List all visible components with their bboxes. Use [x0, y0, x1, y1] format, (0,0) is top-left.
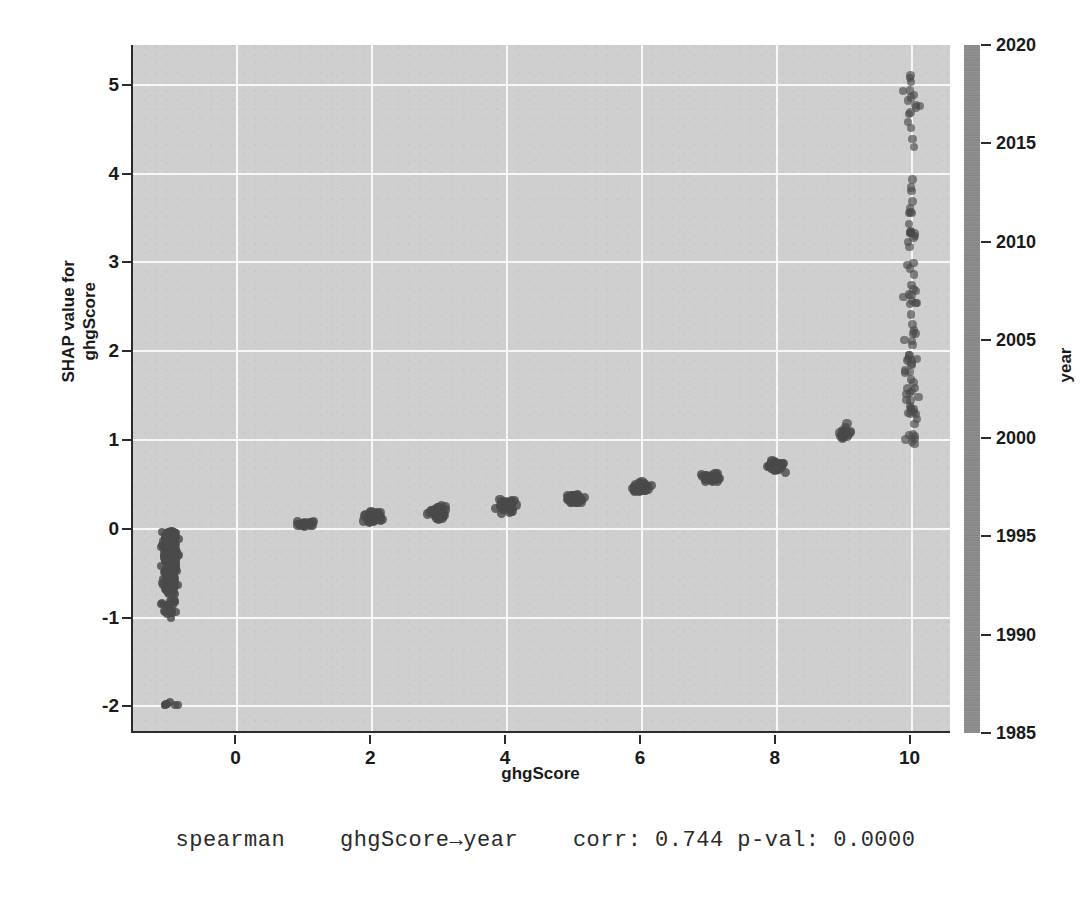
- scatter-point: [908, 341, 916, 349]
- scatter-point: [910, 143, 918, 151]
- scatter-point: [573, 490, 582, 499]
- colorbar-tick-mark: [981, 732, 991, 734]
- scatter-point: [491, 504, 500, 513]
- scatter-point: [909, 430, 917, 438]
- scatter-point: [908, 135, 916, 143]
- paper-texture: [133, 45, 950, 731]
- scatter-point: [501, 502, 510, 511]
- colorbar-tick-label: 1985: [996, 723, 1036, 744]
- colorbar-tick-label: 1990: [996, 624, 1036, 645]
- scatter-point: [899, 293, 907, 301]
- scatter-point: [904, 238, 912, 246]
- gridline-horizontal: [133, 617, 950, 619]
- gridline-horizontal: [133, 261, 950, 263]
- scatter-point: [901, 366, 909, 374]
- y-tick-mark: [122, 173, 131, 175]
- scatter-point: [910, 405, 918, 413]
- x-tick-mark: [234, 735, 236, 744]
- scatter-point: [910, 91, 918, 99]
- scatter-point: [906, 71, 914, 79]
- colorbar-title: year: [1056, 325, 1076, 405]
- colorbar-tick-label: 2015: [996, 133, 1036, 154]
- y-tick-label: 0: [108, 518, 119, 540]
- y-axis-title-line2: ghgScore: [80, 282, 99, 360]
- colorbar-tick-mark: [981, 634, 991, 636]
- y-tick-label: -1: [102, 607, 119, 629]
- y-tick-mark: [122, 705, 131, 707]
- colorbar-tick-mark: [981, 339, 991, 341]
- y-tick-mark: [122, 84, 131, 86]
- scatter-point: [781, 468, 790, 477]
- gridline-horizontal: [133, 84, 950, 86]
- scatter-point: [910, 440, 918, 448]
- gridline-horizontal: [133, 439, 950, 441]
- scatter-point: [438, 512, 447, 521]
- scatter-point: [701, 473, 710, 482]
- scatter-point: [174, 701, 182, 709]
- x-tick-mark: [369, 735, 371, 744]
- scatter-point: [635, 483, 644, 492]
- x-tick-mark: [504, 735, 506, 744]
- colorbar-tick-mark: [981, 44, 991, 46]
- gridline-horizontal: [133, 350, 950, 352]
- gridline-vertical: [506, 45, 508, 731]
- colorbar-tick-mark: [981, 142, 991, 144]
- scatter-point: [910, 326, 918, 334]
- gridline-vertical: [236, 45, 238, 731]
- gridline-horizontal: [133, 173, 950, 175]
- scatter-point: [909, 259, 917, 267]
- scatter-point: [911, 232, 919, 240]
- colorbar-tick-label: 2020: [996, 35, 1036, 56]
- scatter-point: [906, 389, 914, 397]
- scatter-point: [907, 310, 915, 318]
- x-tick-mark: [774, 735, 776, 744]
- colorbar-tick-label: 2005: [996, 329, 1036, 350]
- scatter-point: [912, 103, 920, 111]
- scatter-point: [368, 510, 377, 519]
- gridline-vertical: [371, 45, 373, 731]
- scatter-point: [899, 87, 907, 95]
- scatter-point: [908, 175, 916, 183]
- x-tick-mark: [909, 735, 911, 744]
- x-axis-title: ghgScore: [131, 764, 950, 784]
- scatter-point: [167, 614, 175, 622]
- colorbar-tick-mark: [981, 535, 991, 537]
- y-axis-title: SHAP value for ghgScore: [58, 236, 101, 406]
- scatter-point: [907, 359, 915, 367]
- colorbar-tick-label: 1995: [996, 526, 1036, 547]
- scatter-point: [908, 197, 916, 205]
- gridline-vertical: [641, 45, 643, 731]
- scatter-point: [905, 110, 913, 118]
- y-tick-mark: [122, 439, 131, 441]
- colorbar-tick-label: 2000: [996, 428, 1036, 449]
- x-tick-mark: [639, 735, 641, 744]
- gridline-vertical: [776, 45, 778, 731]
- scatter-point: [169, 564, 177, 572]
- y-tick-label: 2: [108, 340, 119, 362]
- scatter-point: [907, 209, 915, 217]
- y-tick-label: 3: [108, 251, 119, 273]
- colorbar-tick-label: 2010: [996, 231, 1036, 252]
- scatter-point: [166, 698, 174, 706]
- gridline-horizontal: [133, 528, 950, 530]
- y-tick-label: -2: [102, 695, 119, 717]
- colorbar: [964, 45, 980, 733]
- y-axis-title-line1: SHAP value for: [59, 260, 78, 383]
- colorbar-tick-mark: [981, 241, 991, 243]
- scatter-point: [171, 540, 179, 548]
- scatter-point: [563, 495, 572, 504]
- y-tick-mark: [122, 528, 131, 530]
- plot-area: [131, 45, 950, 733]
- y-tick-mark: [122, 617, 131, 619]
- scatter-point: [767, 463, 776, 472]
- y-tick-mark: [122, 261, 131, 263]
- scatter-point: [905, 351, 913, 359]
- y-tick-label: 1: [108, 429, 119, 451]
- colorbar-texture: [964, 45, 980, 733]
- correlation-caption: spearman ghgScore→year corr: 0.744 p-val…: [0, 828, 1091, 853]
- y-tick-mark: [122, 350, 131, 352]
- scatter-point: [907, 375, 915, 383]
- y-tick-label: 4: [108, 163, 119, 185]
- gridline-horizontal: [133, 705, 950, 707]
- colorbar-tick-mark: [981, 437, 991, 439]
